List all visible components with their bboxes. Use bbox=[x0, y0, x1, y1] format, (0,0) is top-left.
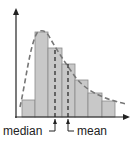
y-axis-arrow-icon bbox=[13, 8, 19, 15]
bar-6 bbox=[88, 93, 102, 117]
bar-7 bbox=[102, 101, 115, 117]
mean-label: mean bbox=[77, 124, 107, 138]
bar-2 bbox=[35, 32, 48, 117]
bar-5 bbox=[75, 80, 88, 117]
bar-1 bbox=[22, 100, 35, 117]
histogram-chart: median mean bbox=[0, 0, 139, 145]
median-arrow-icon bbox=[53, 119, 57, 124]
median-label: median bbox=[3, 124, 42, 138]
mean-arrow-icon bbox=[66, 119, 70, 124]
x-axis-arrow-icon bbox=[123, 114, 130, 120]
